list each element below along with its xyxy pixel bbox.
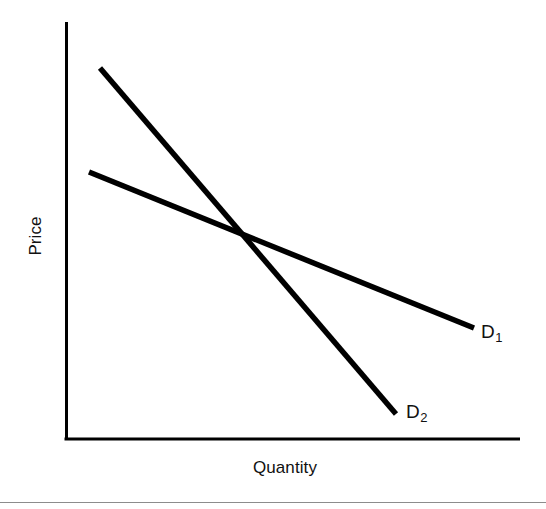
curve-label-d2-subscript: 2 [420,410,427,425]
curve-group [89,68,474,414]
curve-label-d1: D1 [481,322,502,341]
footer-divider [0,502,546,503]
curve-label-d1-letter: D [481,321,495,342]
demand-curve-d1 [89,172,474,328]
curve-label-d1-subscript: 1 [495,330,502,345]
demand-curve-d2 [100,68,396,414]
y-axis-title-text: Price [27,216,44,255]
x-axis-title: Quantity [253,459,317,476]
axis-group [65,22,521,440]
chart-canvas [0,0,546,509]
curve-label-d2-letter: D [406,401,420,422]
demand-curve-figure: Price Quantity D1 D2 [0,0,546,509]
curve-label-d2: D2 [406,402,427,421]
